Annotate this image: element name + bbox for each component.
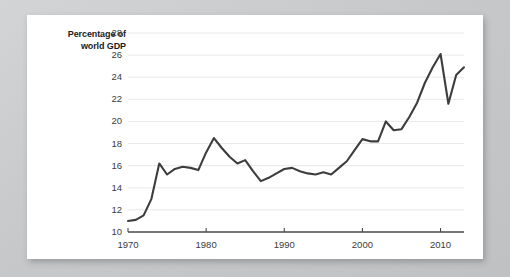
y-tick-label: 22 — [100, 94, 122, 104]
data-line-series — [128, 54, 464, 221]
gridlines-group — [128, 33, 464, 210]
chart-card: Percentage of world GDP 1012141618202224… — [27, 15, 483, 259]
y-tick-label: 14 — [100, 183, 122, 193]
x-tick-label: 2000 — [342, 240, 382, 250]
y-tick-label: 20 — [100, 116, 122, 126]
y-tick-label: 18 — [100, 139, 122, 149]
x-tick-label: 1980 — [186, 240, 226, 250]
y-tick-label: 26 — [100, 50, 122, 60]
chart-figure: Percentage of world GDP 1012141618202224… — [27, 15, 483, 259]
y-tick-label: 24 — [100, 72, 122, 82]
y-tick-label: 12 — [100, 205, 122, 215]
y-tick-label: 10 — [100, 227, 122, 237]
plot-svg — [27, 15, 483, 259]
x-tick-label: 1990 — [264, 240, 304, 250]
y-tick-label: 16 — [100, 161, 122, 171]
x-tick-label: 1970 — [108, 240, 148, 250]
x-tick-label: 2010 — [421, 240, 461, 250]
y-tick-label: 28 — [100, 28, 122, 38]
